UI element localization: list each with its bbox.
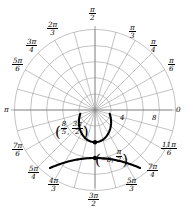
- grid-spoke-105: [74, 32, 95, 110]
- angle-7pi-6: 7π6: [12, 142, 23, 158]
- grid-spoke-30: [95, 70, 165, 110]
- point-marker-lower: [93, 140, 97, 144]
- angle-5pi-6: 5π6: [12, 57, 23, 73]
- angle-2pi-3: 2π3: [47, 21, 58, 37]
- angle-7pi-4: 7π4: [147, 163, 158, 179]
- angle-5pi-4: 5π4: [28, 165, 39, 181]
- point-label-upper: (−8, π2): [95, 149, 128, 164]
- grid-spoke-75: [95, 32, 116, 110]
- angle-5pi-3: 5π3: [126, 177, 137, 193]
- angle-pi-4: π4: [150, 38, 157, 54]
- angle-pi: π: [4, 105, 9, 114]
- grid-spoke-135: [38, 53, 95, 110]
- grid-spoke-120: [55, 40, 95, 110]
- polar-plot: [0, 0, 189, 218]
- radial-tick-8: 8: [152, 114, 156, 122]
- angle-pi-6: π6: [168, 57, 175, 73]
- grid-spoke-60: [95, 40, 135, 110]
- angle-4pi-3: 4π3: [48, 177, 59, 193]
- angle-pi-3: π3: [129, 24, 136, 40]
- radial-tick-4: 4: [120, 114, 124, 122]
- angle-3pi-4: 3π4: [26, 38, 37, 54]
- point-label-lower: (85, 3π2): [55, 121, 89, 136]
- grid-spoke-300: [95, 110, 135, 180]
- grid-spoke-345: [95, 110, 173, 131]
- angle-3pi-2: 3π2: [88, 192, 99, 208]
- grid-spoke-15: [95, 89, 173, 110]
- grid-spoke-165: [17, 89, 95, 110]
- angle-11pi-6: 11π6: [161, 141, 177, 157]
- angle-0: 0: [176, 105, 181, 114]
- grid-spoke-45: [95, 53, 152, 110]
- grid-spoke-150: [25, 70, 95, 110]
- angle-pi-2: π2: [89, 6, 96, 22]
